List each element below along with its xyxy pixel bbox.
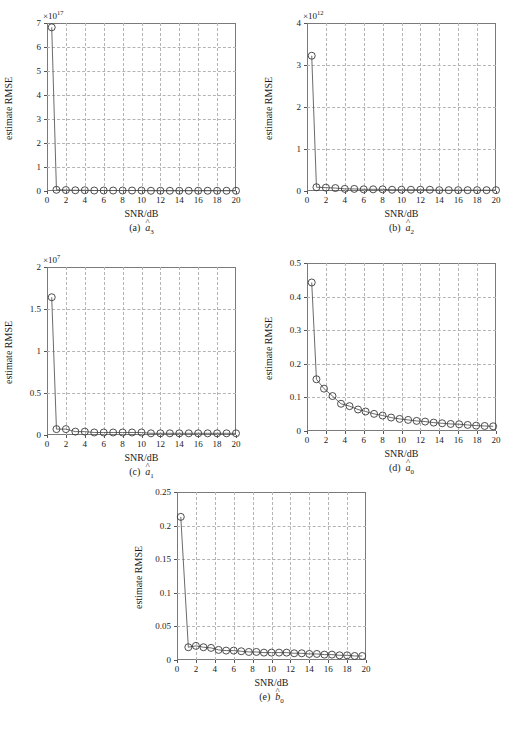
x-tick-mark [253,660,254,663]
x-tick-mark [366,660,367,663]
x-axis-title: SNR/dB [255,677,289,688]
x-tick-label: 18 [343,664,352,674]
x-tick-label: 12 [286,664,295,674]
y-tick-label: 0.1 [143,588,171,598]
data-series-e [177,492,366,660]
x-tick-label: 16 [324,664,333,674]
y-tick-mark [174,593,177,594]
x-tick-label: 6 [231,664,236,674]
y-tick-mark [174,559,177,560]
y-tick-label: 0.05 [143,621,171,631]
y-tick-mark [174,492,177,493]
series-canvas [177,492,366,660]
x-tick-mark [196,660,197,663]
x-tick-mark [177,660,178,663]
y-tick-label: 0.25 [143,487,171,497]
x-tick-label: 8 [250,664,255,674]
x-tick-label: 10 [267,664,276,674]
y-tick-label: 0.2 [143,521,171,531]
x-tick-mark [234,660,235,663]
x-tick-label: 2 [194,664,199,674]
x-tick-mark [272,660,273,663]
x-tick-mark [290,660,291,663]
y-tick-mark [174,626,177,627]
x-tick-label: 20 [362,664,371,674]
y-axis-title: estimate RMSE [133,546,144,609]
x-tick-label: 14 [305,664,314,674]
figure-bottom-caption [50,727,470,734]
y-tick-label: 0 [143,655,171,665]
plot-area-e [177,492,366,660]
x-tick-label: 4 [213,664,218,674]
subplot-caption-e: (e) ^b0 [259,691,284,705]
x-tick-label: 0 [175,664,180,674]
y-tick-mark [174,660,177,661]
x-tick-mark [328,660,329,663]
y-tick-label: 0.15 [143,554,171,564]
y-tick-mark [174,526,177,527]
x-tick-mark [347,660,348,663]
figure-root: 0246810121416182001234567×1017SNR/dBesti… [0,0,520,734]
subplot-e: 0246810121416182000.050.10.150.20.25SNR/… [0,0,520,734]
x-tick-mark [215,660,216,663]
x-tick-mark [309,660,310,663]
